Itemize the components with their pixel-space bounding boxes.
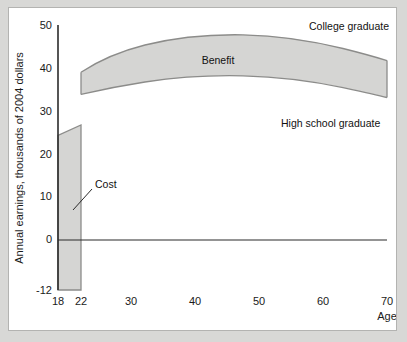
benefit-region-label: Benefit xyxy=(202,54,235,66)
chart-figure: 50 40 30 20 10 0 -12 Annual earnings, th… xyxy=(8,7,397,331)
x-tick-50: 50 xyxy=(253,295,265,307)
y-tick-0: 0 xyxy=(46,233,52,245)
y-tick-10: 10 xyxy=(40,190,52,202)
y-tick-30: 30 xyxy=(40,105,52,117)
y-axis-ticks: 50 40 30 20 10 0 -12 xyxy=(36,19,52,296)
y-tick-50: 50 xyxy=(40,19,52,31)
x-axis-title: Age xyxy=(377,310,396,322)
x-tick-30: 30 xyxy=(125,295,137,307)
y-tick-40: 40 xyxy=(40,62,52,74)
y-axis-title: Annual earnings, thousands of 2004 dolla… xyxy=(13,52,25,264)
benefit-region-fill xyxy=(81,35,387,98)
x-tick-22: 22 xyxy=(75,295,87,307)
x-tick-70: 70 xyxy=(381,295,393,307)
cost-region-fill xyxy=(58,125,81,290)
cost-region-label: Cost xyxy=(95,178,117,190)
y-tick-20: 20 xyxy=(40,148,52,160)
x-tick-18: 18 xyxy=(52,295,64,307)
high-school-graduate-label: High school graduate xyxy=(281,117,380,129)
earnings-age-chart: 50 40 30 20 10 0 -12 Annual earnings, th… xyxy=(9,8,396,330)
x-tick-60: 60 xyxy=(317,295,329,307)
x-tick-40: 40 xyxy=(189,295,201,307)
cost-region xyxy=(58,125,81,290)
x-axis-ticks: 18 22 30 40 50 60 70 xyxy=(52,295,393,307)
college-graduate-label: College graduate xyxy=(309,20,389,32)
y-tick-neg12: -12 xyxy=(36,284,52,296)
benefit-region xyxy=(81,35,387,98)
